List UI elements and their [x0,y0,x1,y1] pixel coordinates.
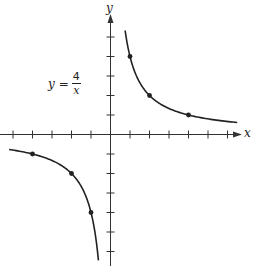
axis-ticks [13,37,228,252]
equation-numerator: 4 [72,71,81,84]
equation-equals: = [59,77,69,91]
data-point [30,152,35,157]
data-point [128,54,133,59]
data-point [89,210,94,215]
x-axis-label: x [244,127,251,139]
branch-negative-curve [9,150,98,261]
equation-label: y = 4 x [48,71,81,96]
y-axis-arrow-icon [108,14,114,23]
data-point [186,113,191,118]
axes [0,14,242,266]
data-point [147,93,152,98]
equation-lhs: y [48,77,55,91]
x-axis-arrow-icon [233,132,242,138]
curves [9,31,237,261]
y-axis-label: y [106,2,113,14]
hyperbola-chart [0,0,264,268]
equation-denominator: x [73,84,79,96]
equation-fraction: 4 x [72,71,81,96]
branch-positive-curve [125,31,237,123]
data-point [69,171,74,176]
